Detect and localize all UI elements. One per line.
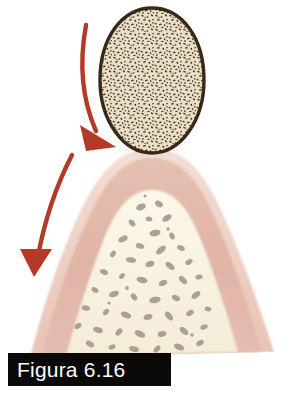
anatomical-illustration (0, 0, 301, 405)
speckled-ovoid-mass (100, 8, 204, 153)
gingiva-bone-group (30, 148, 274, 358)
figure-caption-box: Figura 6.16 (8, 353, 171, 386)
figure-caption-label: Figura 6.16 (17, 359, 125, 380)
figure-container: Figura 6.16 (0, 0, 301, 405)
